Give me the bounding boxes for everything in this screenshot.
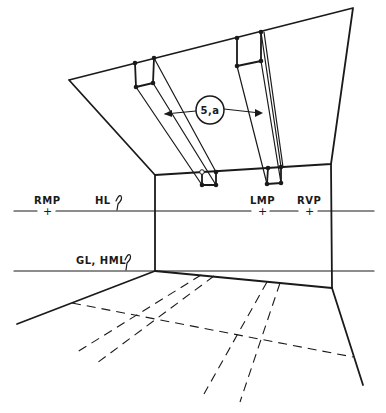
ceiling-beam-right — [235, 30, 284, 187]
gl-hml-marker: GL, HML — [76, 255, 131, 270]
back-wall — [155, 164, 332, 288]
callout-label: 5,a — [200, 105, 219, 116]
ceiling-plane — [69, 8, 353, 175]
rmp-marker: RMP + — [34, 195, 60, 218]
perspective-diagram: 5,a RMP + HL LMP + RVP + GL, HML — [0, 0, 386, 413]
lmp-plus-icon: + — [258, 205, 267, 218]
lmp-marker: LMP + — [250, 195, 275, 218]
diagram-canvas: 5,a RMP + HL LMP + RVP + GL, HML — [0, 0, 386, 413]
rvp-plus-icon: + — [305, 205, 314, 218]
rmp-plus-icon: + — [43, 205, 52, 218]
rvp-marker: RVP + — [297, 195, 321, 218]
floor-projections — [72, 275, 353, 402]
gl-hml-label: GL, HML — [76, 255, 126, 266]
arrow-left-icon — [164, 110, 172, 117]
hl-pointer-icon — [116, 196, 122, 210]
hl-marker: HL — [95, 195, 122, 210]
arrow-right-icon — [255, 109, 263, 117]
floor-edges — [17, 271, 363, 385]
hl-label: HL — [95, 195, 111, 206]
